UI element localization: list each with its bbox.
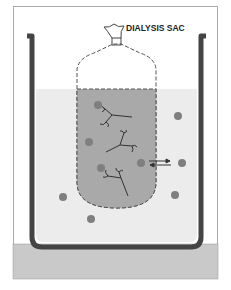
- dialysis-sac-label: DIALYSIS SAC: [126, 23, 185, 33]
- sac-knot: [104, 24, 124, 38]
- dialysis-diagram: [0, 0, 231, 290]
- dialysis-sac-fill: [77, 89, 156, 208]
